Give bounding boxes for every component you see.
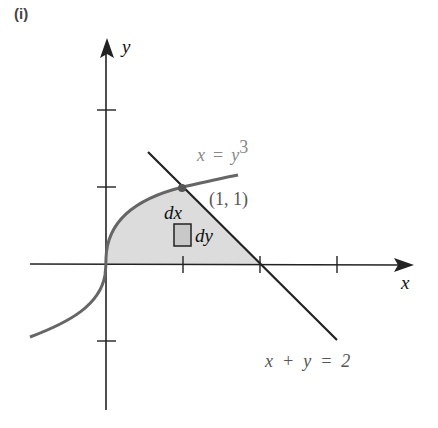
dx-label: dx <box>164 202 183 223</box>
area-element-rectangle <box>174 224 191 246</box>
cubic-curve-label: x=y3 <box>196 137 248 165</box>
intersection-point <box>178 184 186 192</box>
y-axis-label: y <box>120 36 131 57</box>
intersection-point-label: (1, 1) <box>209 189 248 210</box>
dy-label: dy <box>195 225 214 246</box>
line-equation-label: x + y = 2 <box>264 351 350 371</box>
double-integral-region-figure: (i) x y x=y3 (1, 1) dx dy x + y = 2 <box>0 0 438 428</box>
y-axis-arrow-icon <box>100 38 114 58</box>
panel-label: (i) <box>14 5 28 22</box>
x-axis-label: x <box>400 272 410 293</box>
